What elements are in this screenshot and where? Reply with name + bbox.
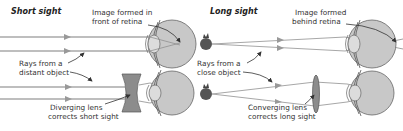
short-sight-image-label: Image formed in front of retina	[92, 8, 155, 26]
long-sight-panel: Long sight Image formed behind retina	[197, 7, 403, 121]
long-sight-title: Long sight	[210, 7, 259, 16]
short-sight-eye	[146, 20, 197, 68]
short-sight-corrected-eye	[147, 70, 195, 116]
rays-pointer-arrow-2	[243, 72, 272, 82]
short-sight-panel: Short sight Image formed in front of ret…	[0, 7, 196, 121]
converging-lens-label: Converging lens corrects long sight	[248, 103, 316, 121]
rays-pointer-arrow	[68, 53, 84, 63]
sight-correction-diagram: Short sight Image formed in front of ret…	[0, 0, 403, 131]
long-sight-rays-label: Rays from a close object	[197, 59, 243, 77]
diverging-lens-label: Diverging lens corrects short sight	[48, 103, 119, 121]
diverging-lens	[122, 74, 141, 112]
close-object-icon	[200, 33, 212, 50]
short-sight-rays-label: Rays from a distant object	[19, 59, 69, 77]
long-sight-corrected-eye	[347, 70, 395, 116]
rays-pointer-arrow-2	[70, 72, 92, 81]
long-sight-eye	[346, 20, 397, 68]
short-sight-title: Short sight	[11, 7, 62, 16]
close-object-icon-2	[200, 83, 212, 100]
long-sight-image-label: Image formed behind retina	[292, 8, 349, 26]
converging-lens	[313, 75, 320, 113]
rays-pointer-arrow	[247, 52, 261, 63]
